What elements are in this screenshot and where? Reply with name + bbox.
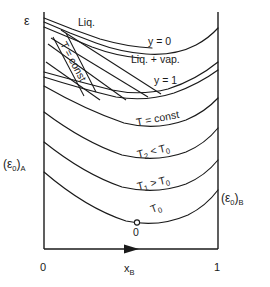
x-axis-arrow-icon	[124, 245, 139, 254]
boundary-label-y0: y = 0	[148, 35, 171, 47]
curve-isotherm-t2	[44, 112, 218, 158]
x-axis-label: xB	[124, 262, 135, 277]
x-tick-label-right: 1	[214, 261, 220, 273]
right-eps-subB: B	[239, 198, 244, 207]
svg-text:T1 > T0: T1 > T0	[136, 173, 171, 195]
boundary-label-y1: y = 1	[154, 74, 177, 86]
t0-sub: 0	[156, 205, 163, 215]
region-label-liquid: Liq.	[78, 16, 95, 28]
isotherm-label-t0: T0	[149, 200, 164, 217]
right-endpoint-label: (ε0)B	[221, 191, 244, 207]
curve-isotherm-t0	[44, 172, 218, 223]
t1-ref-sub: 0	[165, 178, 171, 188]
isotherm-label-t2: T2 < T0	[136, 141, 171, 163]
isotherm-label-t-const: T = const	[135, 108, 180, 128]
t1-rel: > T	[146, 174, 167, 190]
isotherm-label-t1: T1 > T0	[136, 173, 171, 195]
minimum-point-marker	[134, 220, 139, 225]
x-axis-label-sub: B	[130, 268, 135, 277]
left-endpoint-label: (ε0)A	[3, 157, 26, 173]
phase-diagram-svg: ε Liq. y = 0 Liq. + vap. y = 1 T = const…	[0, 0, 270, 287]
x-tick-label-left: 0	[40, 261, 46, 273]
region-label-liquid-vapour: Liq. + vap.	[131, 53, 180, 65]
svg-text:T0: T0	[149, 200, 164, 217]
left-eps-subA: A	[21, 164, 26, 173]
t2-rel: < T	[146, 142, 167, 158]
svg-text:T2 < T0: T2 < T0	[136, 141, 171, 163]
minimum-point-label: 0	[133, 226, 139, 238]
t2-ref-sub: 0	[165, 146, 171, 156]
y-axis-label: ε	[24, 14, 30, 28]
phase-diagram-figure: ε Liq. y = 0 Liq. + vap. y = 1 T = const…	[0, 0, 270, 287]
